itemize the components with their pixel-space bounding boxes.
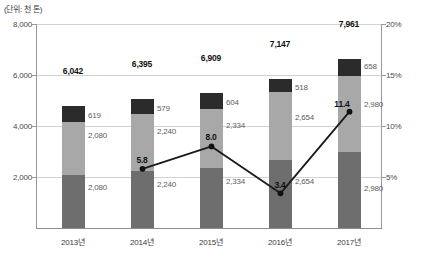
bar-2017-total-label: 7,961 <box>319 19 379 29</box>
bar-2017-top-label: 658 <box>364 62 377 71</box>
bar-2013-middle-label: 2,080 <box>88 131 107 140</box>
line-point-label-2017: 11.4 <box>322 99 362 109</box>
bar-2017-segment-top <box>338 59 361 76</box>
bar-2017-segment-bottom <box>338 152 361 228</box>
bar-2015-segment-bottom <box>200 168 223 228</box>
bar-2016-top-label: 518 <box>295 83 308 92</box>
x-axis-label-2017: 2017년 <box>314 236 384 247</box>
bar-2015-total-label: 6,909 <box>181 53 241 63</box>
bar-2017 <box>338 59 361 228</box>
bar-2013-bottom-label: 2,080 <box>88 183 107 192</box>
bar-2013 <box>62 106 85 228</box>
unit-caption: (단위: 천 톤) <box>4 3 42 14</box>
y-axis-label-6000: 6,000 <box>0 71 32 80</box>
tickmark-left-4000 <box>32 126 36 127</box>
bar-2016-middle-label: 2,654 <box>295 113 314 122</box>
y2-axis-label-15pct: 15% <box>386 71 416 80</box>
bar-2013-segment-bottom <box>62 175 85 228</box>
y2-axis-label-5pct: 5% <box>386 173 416 182</box>
bar-2014-segment-top <box>131 99 154 114</box>
tickmark-left-8000 <box>32 24 36 25</box>
bar-2013-segment-middle <box>62 122 85 175</box>
y-axis-label-4000: 4,000 <box>0 122 32 131</box>
bar-2015-top-label: 604 <box>226 98 239 107</box>
tickmark-left-6000 <box>32 75 36 76</box>
axis-line-left <box>36 24 37 229</box>
bar-2014-segment-bottom <box>131 171 154 228</box>
tickmark-left-2000 <box>32 177 36 178</box>
bar-2015-segment-top <box>200 93 223 109</box>
bar-2015 <box>200 93 223 228</box>
bar-2014-bottom-label: 2,240 <box>157 180 176 189</box>
y2-axis-label-10pct: 10% <box>386 122 416 131</box>
y-axis-label-2000: 2,000 <box>0 173 32 182</box>
bar-2016-segment-middle <box>269 92 292 160</box>
line-point-label-2016: 3.4 <box>260 180 300 190</box>
chart-screenshot: (단위: 천 톤) 8,000 6,000 4,000 2,000 20% 15… <box>0 0 424 261</box>
bar-2017-bottom-label: 2,980 <box>364 184 383 193</box>
bar-2016-segment-bottom <box>269 160 292 228</box>
bar-2013-top-label: 619 <box>88 111 101 120</box>
bar-2017-middle-label: 2,980 <box>364 100 383 109</box>
y-axis-label-8000: 8,000 <box>0 20 32 29</box>
bar-2014-total-label: 6,395 <box>112 59 172 69</box>
line-point-label-2015: 8.0 <box>191 132 231 142</box>
y2-axis-label-20pct: 20% <box>386 20 416 29</box>
bar-2013-segment-top <box>62 106 85 122</box>
bar-2014-top-label: 579 <box>157 104 170 113</box>
bar-2016-total-label: 7,147 <box>250 39 310 49</box>
x-axis-label-2014: 2014년 <box>107 236 177 247</box>
bar-2014-middle-label: 2,240 <box>157 127 176 136</box>
axis-line-bottom <box>36 228 382 229</box>
bar-2016 <box>269 79 292 228</box>
bar-2013-total-label: 6,042 <box>43 66 103 76</box>
bar-2015-middle-label: 2,334 <box>226 121 245 130</box>
bar-2017-segment-middle <box>338 76 361 152</box>
line-point-label-2014: 5.8 <box>122 155 162 165</box>
x-axis-label-2015: 2015년 <box>176 236 246 247</box>
bar-2015-bottom-label: 2,334 <box>226 177 245 186</box>
x-axis-label-2016: 2016년 <box>245 236 315 247</box>
bar-2016-segment-top <box>269 79 292 92</box>
x-axis-label-2013: 2013년 <box>38 236 108 247</box>
